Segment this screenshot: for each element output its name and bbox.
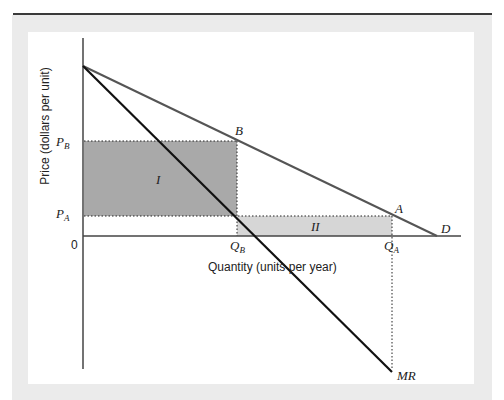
quantity-label-qa: QA (384, 238, 399, 255)
origin-label: 0 (71, 238, 78, 252)
demand-label: D (440, 221, 451, 236)
mr-label: MR (396, 368, 416, 383)
monopoly-diagram: Price (dollars per unit) PB PA 0 QB QA Q… (0, 0, 504, 400)
region-1-area (84, 141, 237, 216)
price-label-pb: PB (55, 134, 70, 151)
region-2-label: II (310, 219, 320, 234)
quantity-label-qb: QB (230, 238, 245, 255)
region-1-label: I (155, 172, 161, 187)
x-axis-label: Quantity (units per year) (208, 260, 337, 274)
price-label-pa: PA (55, 206, 70, 223)
point-label-b: B (235, 123, 243, 138)
point-label-a: A (394, 201, 403, 216)
y-axis-label: Price (dollars per unit) (38, 67, 52, 184)
